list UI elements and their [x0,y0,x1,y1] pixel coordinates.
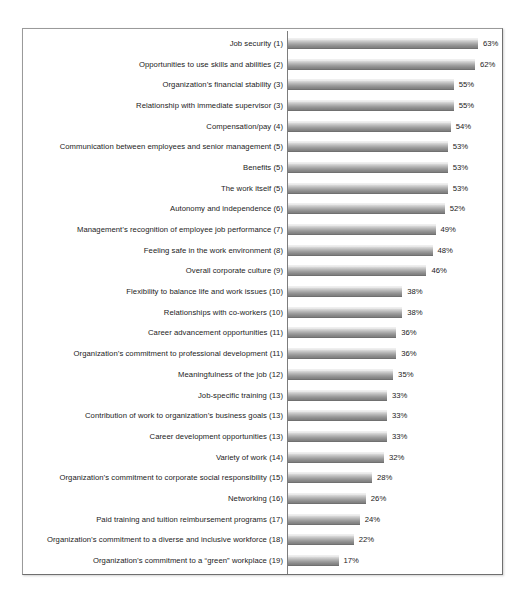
bar-category-label: Career development opportunities (13) [23,432,287,441]
bar-fill [287,141,448,152]
bar-track: 38% [287,281,502,302]
bar-track: 24% [287,509,502,530]
bar-value-label: 22% [359,535,374,544]
bar-row: Career development opportunities (13)33% [23,426,502,447]
bar-fill [287,452,384,463]
bar-track: 36% [287,323,502,344]
bar-category-label: Job security (1) [23,39,287,48]
bar-fill [287,162,448,173]
bar-value-label: 28% [377,473,392,482]
bar-fill [287,38,478,49]
bar-track: 46% [287,261,502,282]
bar-row: Autonomy and independence (6)52% [23,199,502,220]
bar-fill [287,286,402,297]
bar-track: 55% [287,74,502,95]
bar-value-label: 35% [398,370,413,379]
category-axis-line [287,31,288,574]
bar-fill [287,307,402,318]
bar-row: Overall corporate culture (9)46% [23,261,502,282]
bar-value-label: 54% [456,122,471,131]
bar-category-label: Overall corporate culture (9) [23,266,287,275]
bar-value-label: 33% [392,411,407,420]
bar-row: Opportunities to use skills and abilitie… [23,54,502,75]
bar-fill [287,493,366,504]
bar-track: 35% [287,364,502,385]
bar-fill [287,203,445,214]
bar-category-label: Networking (16) [23,494,287,503]
bar-category-label: Paid training and tuition reimbursement … [23,515,287,524]
bar-value-label: 38% [407,287,422,296]
bar-track: 32% [287,447,502,468]
bar-fill [287,224,436,235]
bar-track: 52% [287,199,502,220]
bar-row: Management’s recognition of employee job… [23,219,502,240]
bar-value-label: 32% [389,453,404,462]
bar-value-label: 49% [441,225,456,234]
bar-fill [287,327,396,338]
bar-value-label: 33% [392,391,407,400]
bar-row: Variety of work (14)32% [23,447,502,468]
bar-row: Benefits (5)53% [23,157,502,178]
bar-value-label: 55% [459,101,474,110]
bar-fill [287,534,354,545]
bar-category-label: Organization’s financial stability (3) [23,80,287,89]
bar-fill [287,348,396,359]
bar-row: Networking (16)26% [23,488,502,509]
bar-track: 62% [287,54,502,75]
bar-fill [287,79,454,90]
bar-category-label: Opportunities to use skills and abilitie… [23,60,287,69]
bar-track: 38% [287,302,502,323]
bar-value-label: 36% [401,349,416,358]
bar-category-label: Organization’s commitment to a diverse a… [23,535,287,544]
bar-track: 54% [287,116,502,137]
bar-row: Contribution of work to organization’s b… [23,405,502,426]
bar-category-label: Career advancement opportunities (11) [23,328,287,337]
bar-track: 36% [287,343,502,364]
bar-row: Organization’s commitment to professiona… [23,343,502,364]
bar-track: 49% [287,219,502,240]
bar-value-label: 24% [365,515,380,524]
bar-category-label: Organization’s commitment to corporate s… [23,473,287,482]
bar-row: Career advancement opportunities (11)36% [23,323,502,344]
bar-value-label: 26% [371,494,386,503]
bar-track: 33% [287,426,502,447]
bar-track: 17% [287,550,502,571]
bar-category-label: Contribution of work to organization’s b… [23,411,287,420]
bar-row: Meaningfulness of the job (12)35% [23,364,502,385]
bar-category-label: Organization’s commitment to professiona… [23,349,287,358]
bar-track: 26% [287,488,502,509]
bar-fill [287,555,339,566]
bar-row: Relationship with immediate supervisor (… [23,95,502,116]
bar-fill [287,245,433,256]
bar-row: Organization’s commitment to corporate s… [23,467,502,488]
bar-track: 22% [287,530,502,551]
bar-fill [287,183,448,194]
bar-category-label: Variety of work (14) [23,453,287,462]
bar-track: 33% [287,385,502,406]
bar-value-label: 36% [401,328,416,337]
bar-fill [287,121,451,132]
bar-fill [287,410,387,421]
bar-value-label: 52% [450,204,465,213]
bar-track: 53% [287,178,502,199]
bar-fill [287,390,387,401]
bar-row: Relationships with co-workers (10)38% [23,302,502,323]
bar-category-label: The work itself (5) [23,184,287,193]
bar-value-label: 38% [407,308,422,317]
bar-row: Compensation/pay (4)54% [23,116,502,137]
bar-track: 53% [287,136,502,157]
bar-category-label: Meaningfulness of the job (12) [23,370,287,379]
bar-category-label: Organization’s commitment to a “green” w… [23,556,287,565]
bar-track: 28% [287,467,502,488]
bar-row: Feeling safe in the work environment (8)… [23,240,502,261]
bar-row: Job security (1)63% [23,33,502,54]
bar-value-label: 55% [459,80,474,89]
bar-category-label: Benefits (5) [23,163,287,172]
plot-area: Job security (1)63%Opportunities to use … [23,29,502,574]
bar-fill [287,472,372,483]
bar-category-label: Relationship with immediate supervisor (… [23,101,287,110]
bar-row: Job-specific training (13)33% [23,385,502,406]
bar-fill [287,431,387,442]
bar-value-label: 53% [453,184,468,193]
bar-category-label: Job-specific training (13) [23,391,287,400]
